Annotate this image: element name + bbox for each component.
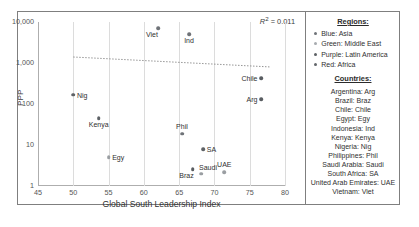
data-point xyxy=(156,27,160,31)
x-tick-label: 60 xyxy=(140,189,148,196)
legend-region-label: Blue: Asia xyxy=(321,30,352,37)
x-tick-label: 45 xyxy=(34,189,42,196)
data-point-label: Saudi xyxy=(199,164,217,171)
data-point xyxy=(259,77,263,81)
data-point xyxy=(259,98,263,102)
data-point xyxy=(199,172,203,176)
x-axis-label: Global South Leadership Index xyxy=(38,199,285,209)
legend-region-item: Blue: Asia xyxy=(314,30,398,37)
data-point-label: Chile xyxy=(241,75,257,82)
y-tick-label: 10,000 xyxy=(12,18,34,25)
legend-marker-icon xyxy=(314,63,317,66)
legend-region-label: Purple: Latin America xyxy=(321,51,388,58)
y-tick-label: 100 xyxy=(22,100,34,107)
legend-country-item: Brazil: Braz xyxy=(308,96,398,105)
data-point xyxy=(187,33,191,37)
x-tick-label: 75 xyxy=(246,189,254,196)
data-point xyxy=(107,156,111,160)
data-point xyxy=(180,132,184,136)
data-point-label: Arg xyxy=(246,96,257,103)
data-point-label: SA xyxy=(207,145,216,152)
legend-country-item: South Africa: SA xyxy=(308,169,398,178)
scatter-chart: R2 = 0.011 PPP Global South Leadership I… xyxy=(17,11,305,205)
legend-region-item: Purple: Latin America xyxy=(314,51,398,58)
legend-region-item: Green: Middle East xyxy=(314,40,398,47)
x-tick-label: 55 xyxy=(105,189,113,196)
legend-regions-list: Blue: AsiaGreen: Middle EastPurple: Lati… xyxy=(308,30,398,68)
legend-country-item: Philippines: Phil xyxy=(308,151,398,160)
legend-country-item: Indonesia: Ind xyxy=(308,124,398,133)
legend-country-item: Kenya: Kenya xyxy=(308,133,398,142)
legend-country-item: Saudi Arabia: Saudi xyxy=(308,160,398,169)
y-tick-label: 10 xyxy=(26,141,34,148)
chart-legend: Regions: Blue: AsiaGreen: Middle EastPur… xyxy=(306,11,400,205)
legend-country-item: Vietnam: Viet xyxy=(308,187,398,196)
y-tick-label: 1,000 xyxy=(16,59,34,66)
data-point-label: Kenya xyxy=(89,121,109,128)
data-point-label: Egy xyxy=(112,154,124,161)
legend-country-item: United Arab Emirates: UAE xyxy=(308,178,398,187)
x-tick-label: 80 xyxy=(281,189,289,196)
legend-countries-heading: Countries: xyxy=(308,74,398,83)
data-point-label: Phil xyxy=(176,123,188,130)
data-point xyxy=(191,167,195,171)
x-tick-label: 50 xyxy=(69,189,77,196)
figure-container: R2 = 0.011 PPP Global South Leadership I… xyxy=(0,0,419,227)
data-point-label: Nig xyxy=(77,91,88,98)
trendline xyxy=(38,22,285,186)
data-point xyxy=(97,116,101,120)
legend-regions-heading: Regions: xyxy=(308,17,398,26)
legend-region-item: Red: Africa xyxy=(314,61,398,68)
x-tick-label: 65 xyxy=(175,189,183,196)
legend-country-item: Chile: Chile xyxy=(308,105,398,114)
legend-region-label: Green: Middle East xyxy=(321,40,381,47)
legend-region-label: Red: Africa xyxy=(321,61,355,68)
legend-country-item: Argentina: Arg xyxy=(308,87,398,96)
legend-country-item: Nigeria: Nig xyxy=(308,142,398,151)
legend-marker-icon xyxy=(314,32,317,35)
x-tick-label: 70 xyxy=(210,189,218,196)
data-point-label: Viet xyxy=(146,31,158,38)
data-point-label: UAE xyxy=(217,161,231,168)
data-point xyxy=(201,147,205,151)
legend-marker-icon xyxy=(314,42,317,45)
data-point-label: Ind xyxy=(184,37,194,44)
gridline xyxy=(285,22,286,186)
legend-marker-icon xyxy=(314,53,317,56)
data-point xyxy=(223,170,227,174)
data-point-label: Braz xyxy=(179,172,193,179)
page-bleed-text xyxy=(9,213,413,227)
legend-country-item: Egypt: Egy xyxy=(308,114,398,123)
data-point xyxy=(71,93,75,97)
plot-area: 1101001,00010,000 4550556065707580 VietI… xyxy=(38,22,285,186)
legend-countries-list: Argentina: ArgBrazil: BrazChile: ChileEg… xyxy=(308,87,398,196)
